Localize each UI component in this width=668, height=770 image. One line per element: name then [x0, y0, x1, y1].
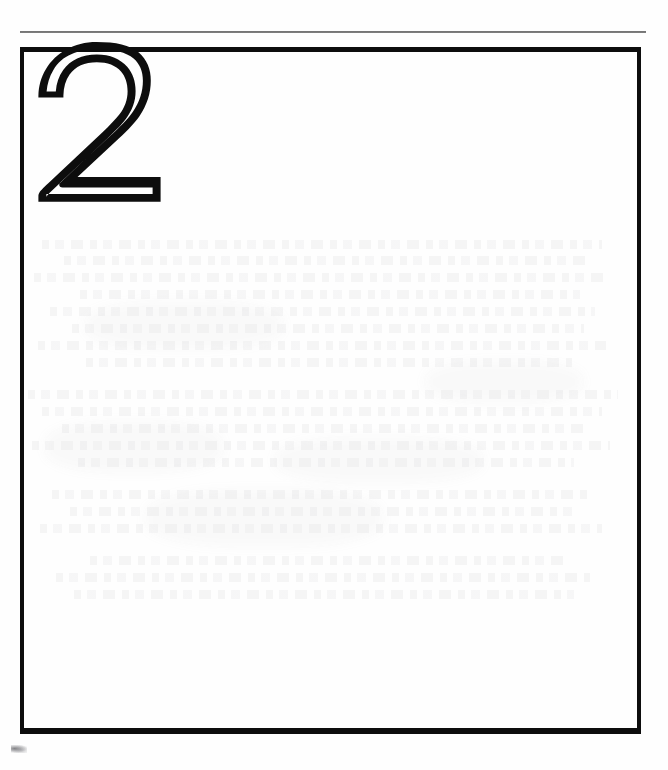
scanned-page: 2 scan smudge bleed-through ghosting — [0, 0, 668, 770]
page-border-box — [20, 47, 641, 734]
chapter-number-label: 2 — [0, 0, 1, 1]
bleedthrough-label: bleed-through ghosting — [0, 0, 1, 1]
horizontal-rule — [20, 31, 646, 33]
smudge-label: scan smudge — [0, 0, 1, 1]
scan-smudge-artifact — [11, 745, 27, 753]
